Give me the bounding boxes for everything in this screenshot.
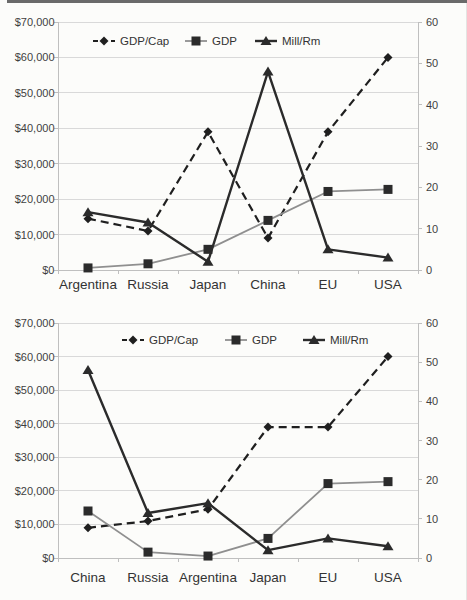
series-mill-rm-triangle-marker [263,67,274,76]
x-axis-category-label: USA [374,570,402,585]
x-axis-category-label: Russia [127,277,169,292]
right-axis-tick-label: 50 [426,57,438,69]
left-axis-tick-label: $30,000 [15,158,55,170]
left-axis-tick-label: $60,000 [15,51,55,63]
left-axis-tick-label: $10,000 [15,229,55,241]
right-axis-tick-label: 20 [426,474,438,486]
left-axis-tick-label: $10,000 [15,518,55,530]
right-axis-tick-label: 10 [426,513,438,525]
x-axis-category-label: Argentina [59,277,117,292]
left-axis-tick-label: $50,000 [15,87,55,99]
series-gdp-line [88,482,388,556]
legend-label: Mill/Rm [330,334,368,346]
x-axis-category-label: EU [319,277,338,292]
right-axis-tick-label: 60 [426,317,438,329]
left-axis-tick-label: $60,000 [15,351,55,363]
series-mill-rm-triangle-marker [83,365,94,374]
bottom-chart: $70,000$60,000$50,000$40,000$30,000$20,0… [0,300,467,600]
series-mill-rm-line [88,72,388,262]
legend-label: GDP/Cap [149,334,198,346]
left-axis-tick-label: $70,000 [15,317,55,329]
right-axis-tick-label: 30 [426,435,438,447]
series-gdp-cap-line [88,57,388,238]
x-axis-category-label: China [70,570,106,585]
series-gdp-square-marker [384,477,393,486]
left-axis-tick-label: $30,000 [15,451,55,463]
right-axis-tick-label: 30 [426,140,438,152]
series-gdp-square-marker [204,552,213,561]
right-axis-tick-label: 40 [426,395,438,407]
left-axis-tick-label: $70,000 [15,16,55,28]
x-axis-category-label: USA [374,277,402,292]
x-axis-category-label: Russia [127,570,169,585]
left-axis-tick-label: $40,000 [15,418,55,430]
x-axis-category-label: Japan [250,570,287,585]
right-axis-tick-label: 20 [426,181,438,193]
left-axis-tick-label: $40,000 [15,122,55,134]
left-axis-tick-label: $0 [42,552,54,564]
legend-label: GDP/Cap [120,35,169,47]
legend-gdp-cap-diamond-icon [129,336,138,345]
x-axis-category-label: Argentina [179,570,237,585]
legend-gdp-square-icon [232,336,241,345]
legend-label: Mill/Rm [282,35,320,47]
x-axis-category-label: EU [319,570,338,585]
series-gdp-square-marker [264,534,273,543]
series-gdp-square-marker [84,263,93,272]
right-axis-tick-label: 0 [426,552,432,564]
legend-label: GDP [212,35,237,47]
left-axis-tick-label: $50,000 [15,384,55,396]
right-axis-tick-label: 50 [426,356,438,368]
legend-label: GDP [252,334,277,346]
x-axis-category-label: Japan [190,277,227,292]
series-gdp-square-marker [144,548,153,557]
right-axis-tick-label: 10 [426,223,438,235]
series-gdp-square-marker [264,216,273,225]
legend-gdp-square-icon [192,37,201,46]
top-chart: $70,000$60,000$50,000$40,000$30,000$20,0… [0,0,467,300]
series-gdp-square-marker [84,507,93,516]
series-gdp-square-marker [144,259,153,268]
series-gdp-square-marker [324,187,333,196]
right-axis-tick-label: 0 [426,264,432,276]
scanned-page: $70,000$60,000$50,000$40,000$30,000$20,0… [0,0,467,600]
right-axis-tick-label: 40 [426,99,438,111]
left-axis-tick-label: $20,000 [15,193,55,205]
series-gdp-square-marker [324,479,333,488]
left-axis-tick-label: $20,000 [15,485,55,497]
x-axis-category-label: China [250,277,286,292]
legend-gdp-cap-diamond-icon [100,37,109,46]
right-axis-tick-label: 60 [426,16,438,28]
series-gdp-cap-line [88,357,388,528]
series-gdp-square-marker [384,185,393,194]
left-axis-tick-label: $0 [42,264,54,276]
